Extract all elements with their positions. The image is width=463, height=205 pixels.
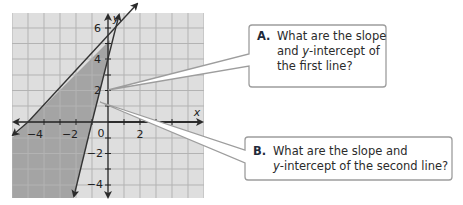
callout-a-text-and: and xyxy=(277,44,302,58)
callout-a-text-intercept: -intercept of xyxy=(309,44,380,58)
callout-a-line-1: What are the slope xyxy=(277,29,405,44)
callout-a-label: A. xyxy=(257,29,270,44)
callout-b: B. What are the slope and y-intercept of… xyxy=(253,144,463,174)
callout-b-line-1: What are the slope and xyxy=(273,144,463,159)
x-tick-label-zero: 0 xyxy=(98,127,105,140)
callout-a-line-2: and y-intercept of xyxy=(277,44,405,59)
callout-b-label: B. xyxy=(253,144,266,159)
x-tick-label-neg4: −4 xyxy=(27,128,43,141)
callout-a-line-3: the first line? xyxy=(277,59,405,74)
x-tick-label-2: 2 xyxy=(137,128,144,141)
callout-b-text-intercept: -intercept of the second line? xyxy=(280,159,448,173)
y-tick-label-6: 6 xyxy=(94,22,101,35)
callout-b-line-2: y-intercept of the second line? xyxy=(273,159,463,174)
callout-a: A. What are the slope and y-intercept of… xyxy=(257,29,405,74)
x-axis-label: x xyxy=(193,106,201,119)
callout-b-text-y: y xyxy=(273,159,280,173)
x-tick-label-neg2: −2 xyxy=(62,128,78,141)
y-tick-label-4: 4 xyxy=(94,53,101,66)
y-tick-label-neg4: −4 xyxy=(87,178,103,191)
y-tick-label-neg2: −2 xyxy=(87,147,103,160)
